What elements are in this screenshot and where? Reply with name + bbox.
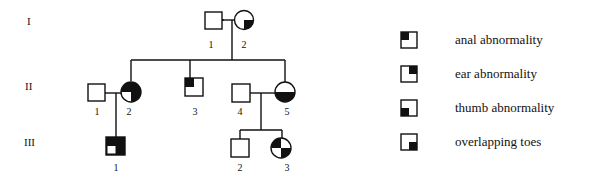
number-II-2: 2 (121, 106, 137, 117)
individual-III-1 (106, 137, 125, 155)
individual-II-5 (275, 82, 295, 102)
number-III-2: 2 (232, 162, 248, 173)
quadrant-bottom-right-icon (400, 133, 418, 151)
number-III-1: 1 (108, 162, 124, 173)
legend-item-thumb: thumb abnormality (400, 98, 554, 118)
individual-II-2 (121, 82, 141, 102)
individual-III-3 (271, 138, 291, 158)
pedigree-chart (0, 0, 400, 177)
individual-III-2 (231, 139, 249, 157)
legend-label: thumb abnormality (455, 100, 554, 116)
legend-item-ear: ear abnormality (400, 64, 537, 84)
legend: anal abnormality ear abnormality thumb a… (400, 0, 597, 177)
legend-item-anal: anal abnormality (400, 30, 543, 50)
number-II-5: 5 (279, 106, 295, 117)
quadrant-top-right-icon (400, 65, 418, 83)
quadrant-bottom-left-icon (400, 99, 418, 117)
number-II-1: 1 (89, 106, 105, 117)
number-II-4: 4 (232, 106, 248, 117)
individual-II-1 (88, 84, 105, 101)
number-I-1: 1 (203, 39, 219, 50)
individual-I-2 (235, 11, 254, 30)
legend-label: overlapping toes (455, 134, 541, 150)
legend-item-toes: overlapping toes (400, 132, 541, 152)
number-III-3: 3 (279, 162, 295, 173)
individual-II-3 (185, 78, 203, 96)
individual-I-1 (205, 12, 222, 29)
legend-label: ear abnormality (455, 66, 537, 82)
quadrant-top-left-icon (400, 31, 418, 49)
number-II-3: 3 (187, 106, 203, 117)
legend-label: anal abnormality (455, 32, 543, 48)
number-I-2: 2 (236, 39, 252, 50)
individual-II-4 (232, 84, 250, 102)
